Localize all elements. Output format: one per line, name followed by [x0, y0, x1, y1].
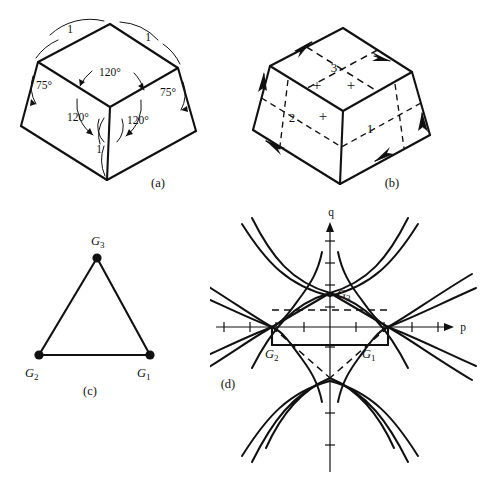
triangle-dashed-left	[272, 327, 330, 378]
panel-d-label: (d)	[221, 377, 236, 391]
figure-root: 1 1 1 75° 75° 120° 120° 120° (a)	[0, 0, 480, 480]
vertex-label-g2-sub: 2	[34, 372, 39, 382]
panel-d-vertex-label-g3-sub: 3	[346, 293, 351, 303]
vertex-label-g2-base: G	[25, 366, 34, 380]
panel-c-label: (c)	[83, 384, 97, 398]
triangle-dashed-right	[330, 327, 388, 378]
q-axis-arrowhead	[326, 222, 334, 232]
vertex-label-g1-base: G	[137, 366, 146, 380]
panel-b-face-number-1: 1	[367, 121, 374, 136]
panel-b-plus-mark-0: +	[313, 77, 321, 93]
p-axis-label: p	[460, 321, 466, 334]
vertex-label-g3: G3	[91, 234, 105, 250]
panel-d: q p G3 G2 G1 (d)	[210, 200, 480, 480]
panel-d-vertex-label-g1-sub: 1	[371, 353, 376, 363]
panel-b-face-number-3: 3	[331, 60, 338, 75]
hyperbola-arm-top-right-outer	[330, 224, 418, 296]
vertex-label-g2: G2	[25, 366, 39, 382]
panel-a-angle-label-0: 75°	[36, 79, 53, 91]
panel-d-vertex-label-g2: G2	[265, 347, 279, 363]
vertex-label-g1: G1	[137, 366, 151, 382]
panel-d-vertex-label-g2-sub: 2	[274, 353, 279, 363]
panel-d-vertex-label-g1-base: G	[362, 347, 371, 361]
vertex-dot-g2	[34, 350, 43, 359]
panel-b-face-number-2: 2	[289, 110, 296, 125]
panel-a-edge-label-2: 1	[96, 143, 102, 155]
panel-a-edge-label-0: 1	[67, 23, 73, 35]
panel-a-edge-label-1: 1	[145, 31, 151, 43]
panel-b-plus-mark-1: +	[347, 77, 355, 93]
panel-a-angle-label-1: 75°	[160, 86, 177, 98]
q-axis-label: q	[328, 206, 334, 219]
hyperbola-waist-left	[272, 252, 322, 327]
vertex-dot-g3	[92, 253, 101, 262]
p-axis-arrowhead	[444, 323, 454, 331]
panel-a-label: (a)	[151, 176, 165, 190]
vertex-label-g3-sub: 3	[100, 240, 105, 250]
hyperbola-arm-bottom-left-outer	[242, 381, 330, 456]
hyperbola-family	[210, 218, 476, 462]
hyperbola-arm-bottom-right-outer	[330, 381, 418, 456]
panel-d-vertex-label-g1: G1	[362, 347, 376, 363]
panel-b-label: (b)	[385, 176, 400, 190]
hyperbola-waist-left-lower	[272, 327, 322, 402]
frustum-a-outline	[21, 24, 196, 180]
triangle-c	[39, 258, 150, 355]
frustum-b-outline	[253, 28, 430, 184]
vertex-dot-g1	[145, 350, 154, 359]
vertex-label-g1-sub: 1	[146, 372, 151, 382]
panel-a-angle-label-4: 120°	[127, 114, 149, 126]
vertex-label-g3-base: G	[91, 234, 100, 248]
panel-b: 3 2 1 + + + (b)	[240, 0, 480, 205]
hyperbola-arm-top-left-outer	[242, 224, 330, 296]
hyperbola-waist-right-lower	[338, 327, 388, 402]
panel-a: 1 1 1 75° 75° 120° 120° 120° (a)	[0, 0, 220, 205]
panel-d-vertex-label-g3-base: G	[337, 287, 346, 301]
panel-d-vertex-label-g2-base: G	[265, 347, 274, 361]
panel-a-angle-label-3: 120°	[67, 111, 89, 123]
panel-c: G3 G2 G1 (c)	[0, 205, 215, 405]
panel-a-angle-label-2: 120°	[99, 66, 121, 78]
panel-b-plus-mark-2: +	[319, 108, 327, 124]
